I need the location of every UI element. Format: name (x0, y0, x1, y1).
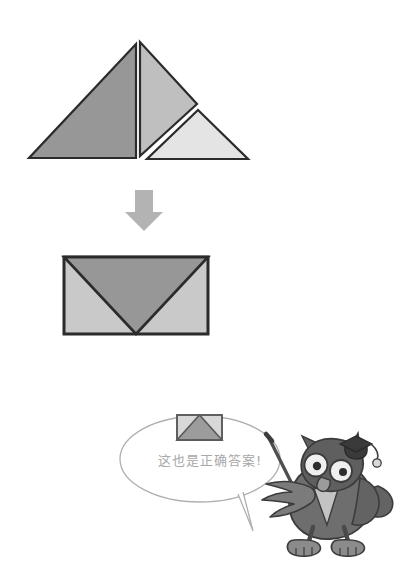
owl-eye-left-pupil (313, 462, 321, 470)
owl-eye-right-pupil (339, 468, 347, 476)
owl-teacher-character (0, 0, 400, 576)
graduation-cap-tassel-cord (371, 444, 378, 460)
owl-beak (317, 477, 330, 491)
illustration-canvas: 这也是正确答案! (0, 0, 400, 576)
pointer-stick-tip (266, 434, 272, 441)
graduation-cap-tassel (373, 459, 381, 467)
